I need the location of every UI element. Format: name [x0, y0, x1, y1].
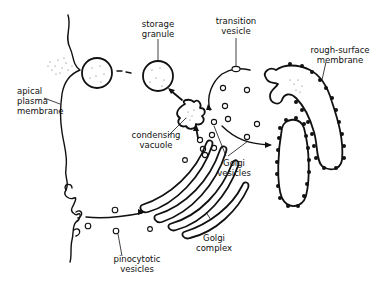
svg-text:vesicles: vesicles [120, 264, 154, 274]
pinocytotic-vesicles [85, 158, 187, 234]
label-apical-plasma-membrane: apical plasma membrane [17, 86, 64, 116]
label-golgi-complex: Golgi complex [196, 233, 232, 253]
svg-text:membrane: membrane [17, 106, 64, 116]
label-storage-granule: storage granule [142, 19, 174, 39]
storage-granule [143, 61, 173, 91]
svg-text:rough-surface: rough-surface [310, 45, 369, 55]
apical-plasma-membrane [47, 15, 81, 262]
svg-text:vesicle: vesicle [221, 26, 250, 36]
rough-er-cisterna-lower [275, 116, 311, 208]
svg-text:membrane: membrane [317, 55, 364, 65]
svg-text:granule: granule [142, 29, 174, 39]
label-transition-vesicle: transition vesicle [216, 16, 257, 36]
label-golgi-vesicles: Golgi vesicles [217, 158, 251, 178]
svg-text:condensing: condensing [132, 130, 181, 140]
svg-text:transition: transition [216, 16, 257, 26]
svg-text:plasma: plasma [17, 96, 48, 106]
svg-text:vacuole: vacuole [139, 140, 172, 150]
arrow-endocytosis [86, 213, 142, 218]
rough-er-cisterna-upper [265, 62, 346, 170]
svg-text:Golgi: Golgi [223, 158, 245, 168]
label-pinocytotic-vesicles: pinocytotic vesicles [114, 254, 161, 274]
secretory-pathway-diagram: storage granule transition vesicle rough… [0, 0, 389, 285]
svg-text:complex: complex [196, 243, 232, 253]
er-boundary-arc [209, 69, 250, 110]
transition-vesicle [232, 66, 240, 71]
dashed-arrow-to-membrane [117, 71, 131, 73]
golgi-complex [140, 140, 248, 238]
condensing-vacuole [177, 100, 205, 129]
svg-text:storage: storage [142, 19, 174, 29]
fusing-granule [82, 58, 112, 88]
svg-text:Golgi: Golgi [203, 233, 225, 243]
label-condensing-vacuole: condensing vacuole [132, 130, 181, 150]
svg-text:vesicles: vesicles [217, 168, 251, 178]
secretion-stipple [47, 57, 72, 74]
svg-text:apical: apical [17, 86, 42, 96]
svg-text:pinocytotic: pinocytotic [114, 254, 161, 264]
vesicles [197, 85, 259, 157]
label-rough-surface-membrane: rough-surface membrane [310, 45, 369, 65]
